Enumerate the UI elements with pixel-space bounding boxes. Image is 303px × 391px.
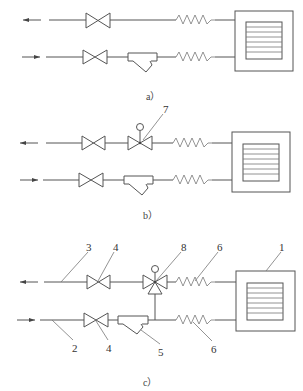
piping-diagram: a） 7: [0, 0, 303, 391]
gate-valve-icon: [84, 313, 108, 327]
y-strainer-icon: [128, 53, 157, 72]
three-way-control-valve-icon: [143, 266, 167, 295]
label-8: 8: [181, 241, 187, 253]
leader-line: [52, 320, 73, 340]
caption-b: b）: [143, 210, 158, 221]
label-6-top: 6: [217, 241, 223, 253]
fan-coil-unit-icon: [235, 11, 293, 71]
label-2: 2: [72, 342, 78, 354]
y-strainer-icon: [124, 176, 153, 195]
label-3: 3: [86, 241, 92, 253]
leader-line: [266, 252, 281, 271]
y-strainer-icon: [118, 316, 148, 334]
leader-line: [143, 114, 163, 140]
caption-a: a）: [146, 91, 160, 102]
two-way-control-valve-icon: [128, 124, 152, 151]
flexible-hose-icon: [173, 175, 212, 184]
leader-line: [156, 252, 181, 281]
label-4-bottom: 4: [106, 342, 112, 354]
flexible-hose-icon: [176, 52, 215, 61]
flexible-hose-icon: [173, 138, 212, 147]
subfigure-b: 7 b）: [20, 103, 290, 221]
label-5: 5: [158, 346, 164, 358]
gate-valve-icon: [79, 173, 103, 187]
caption-c: c）: [143, 377, 157, 388]
subfigure-c: 3 4 8 6 1 2 4 5 6 c）: [17, 241, 295, 388]
gate-valve-icon: [87, 275, 110, 289]
subfigure-a: a）: [22, 11, 293, 102]
fan-coil-unit-icon: [232, 132, 290, 192]
flexible-hose-icon: [176, 315, 215, 324]
label-7: 7: [163, 103, 169, 115]
gate-valve-icon: [83, 50, 107, 64]
flexible-hose-icon: [176, 277, 215, 286]
leader-line: [141, 330, 160, 344]
leader-line: [195, 252, 218, 281]
label-1: 1: [279, 241, 285, 253]
gate-valve-icon: [82, 136, 105, 150]
leader-line: [98, 252, 114, 281]
gate-valve-icon: [86, 13, 110, 28]
leader-line: [61, 252, 88, 282]
label-4-top: 4: [113, 241, 119, 253]
fan-coil-unit-icon: [236, 271, 295, 331]
flexible-hose-icon: [176, 15, 215, 24]
label-6-bottom: 6: [211, 343, 217, 355]
leader-line: [193, 322, 212, 341]
